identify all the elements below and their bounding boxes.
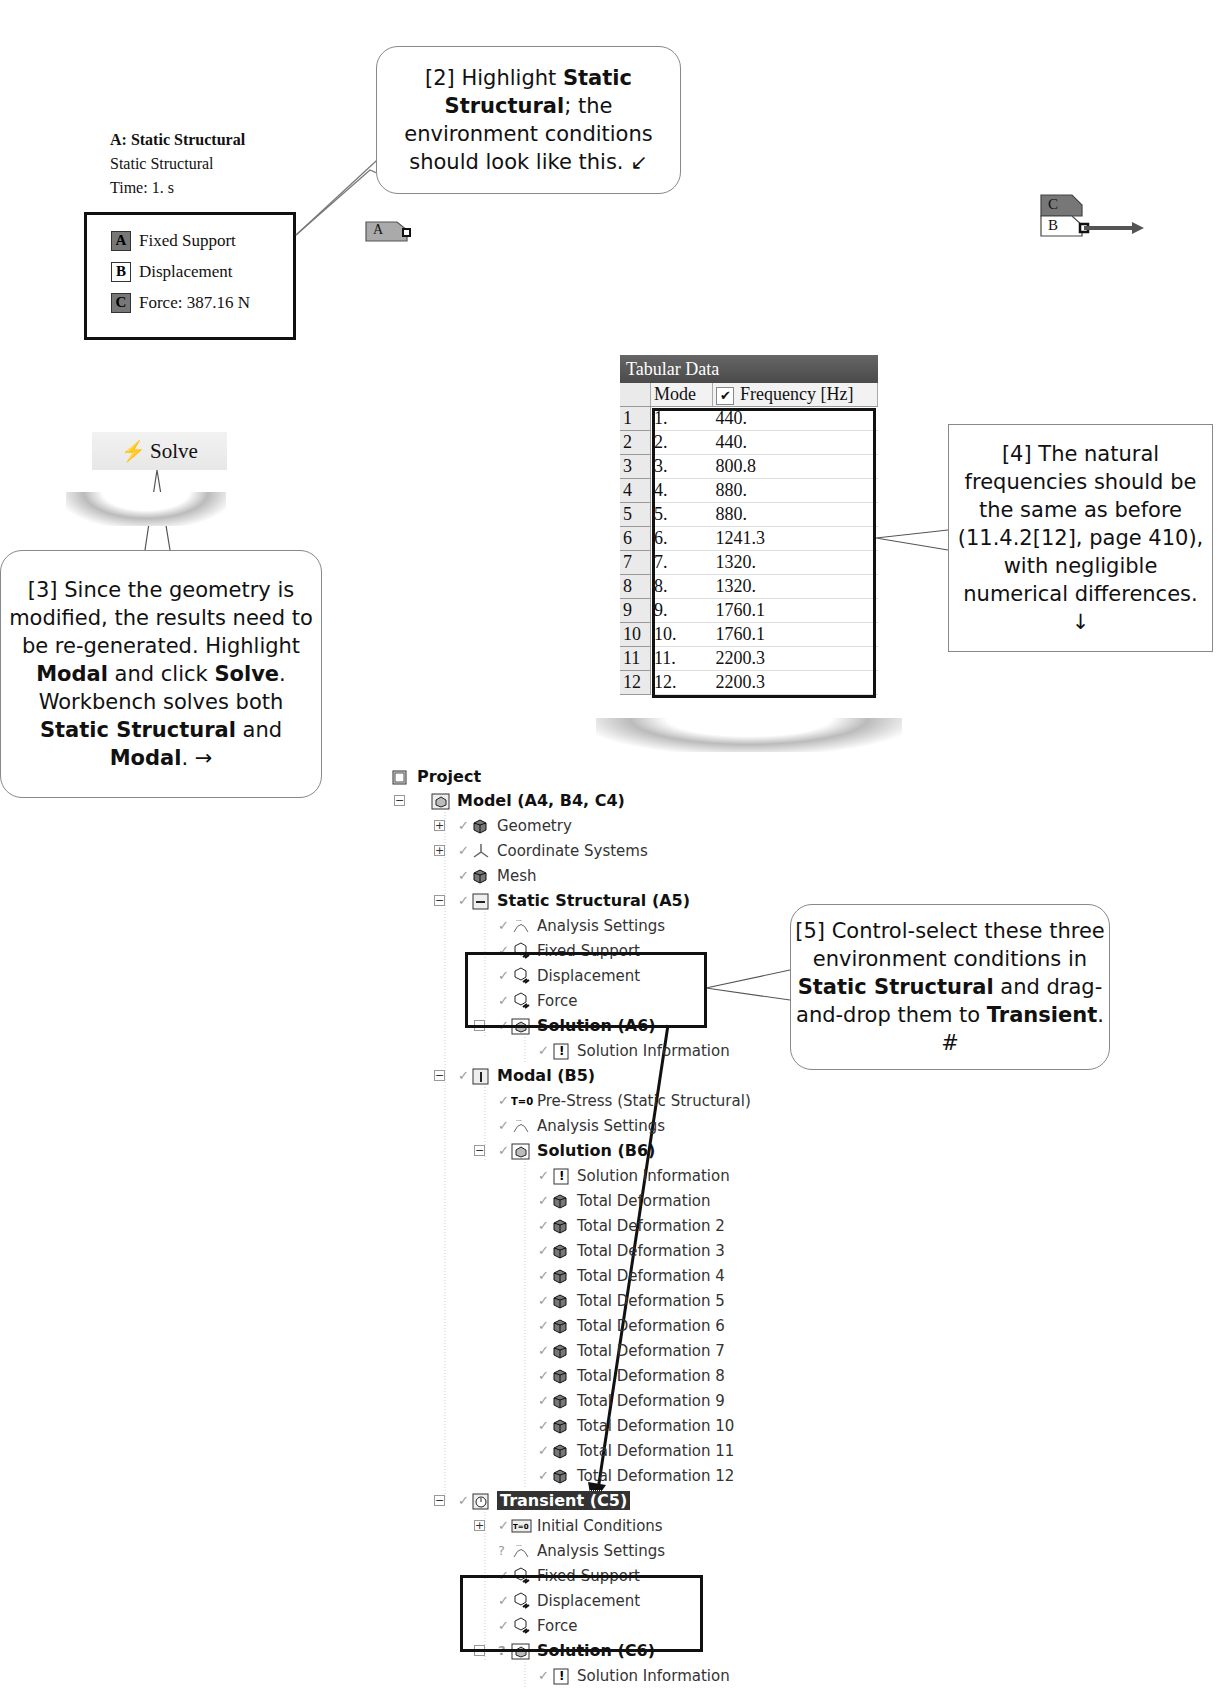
total-deformation-icon <box>551 1417 571 1435</box>
svg-text:...: ... <box>516 1117 522 1122</box>
column-header-mode[interactable]: Mode <box>651 383 713 407</box>
total-deformation-icon <box>551 1317 571 1335</box>
tree-item-label: Pre-Stress (Static Structural) <box>537 1092 751 1110</box>
tree-item-total-deformation-10[interactable]: ✓Total Deformation 10 <box>538 1414 734 1437</box>
status-check-icon: ✓ <box>458 893 470 908</box>
callout-step-2: [2] Highlight Static Structural; the env… <box>376 46 681 194</box>
row-header-corner <box>620 383 651 407</box>
total-deformation-icon <box>551 1217 571 1235</box>
callout-step-5: [5] Control-select these three environme… <box>790 904 1110 1070</box>
solve-button-label: Solve <box>150 439 198 464</box>
callout-bold: Modal <box>36 662 108 686</box>
tree-item-analysis-settings[interactable]: ?...Analysis Settings <box>498 1539 665 1562</box>
callout-text: and <box>236 718 282 742</box>
status-check-icon: ✓ <box>538 1418 550 1433</box>
tree-item-solution-information[interactable]: ✓!Solution Information <box>538 1164 730 1187</box>
tree-item-label: Solution Information <box>577 1167 730 1185</box>
tree-item-modal-b5[interactable]: ✓Modal (B5) <box>458 1064 595 1087</box>
total-deformation-icon <box>551 1192 571 1210</box>
collapse-icon[interactable]: − <box>434 1495 445 1506</box>
collapse-icon[interactable]: − <box>434 895 445 906</box>
tree-item-total-deformation-3[interactable]: ✓Total Deformation 3 <box>538 1239 725 1262</box>
tree-item-geometry[interactable]: ✓Geometry <box>458 814 572 837</box>
tree-item-initial-conditions[interactable]: ✓T=0Initial Conditions <box>498 1514 663 1537</box>
tree-item-static-structural-a5[interactable]: ✓Static Structural (A5) <box>458 889 690 912</box>
svg-text:!: ! <box>559 1669 564 1683</box>
analysis-settings-icon: ... <box>511 917 531 935</box>
status-check-icon: ✓ <box>538 1043 550 1058</box>
tree-item-label: Total Deformation 12 <box>577 1467 734 1485</box>
tree-item-solution-information[interactable]: ✓!Solution Information <box>538 1664 730 1687</box>
geometry-icon <box>471 817 491 835</box>
tree-item-transient-c5[interactable]: ✓Transient (C5) <box>458 1489 630 1512</box>
total-deformation-icon <box>551 1267 571 1285</box>
tree-item-label: Solution Information <box>577 1667 730 1685</box>
tree-item-solution-b6[interactable]: ✓Solution (B6) <box>498 1139 655 1162</box>
tree-item-project[interactable]: Project <box>378 765 481 788</box>
tree-item-solution-information[interactable]: ✓!Solution Information <box>538 1039 730 1062</box>
callout-bold: Modal <box>110 746 182 770</box>
initial-conditions-icon: T=0 <box>511 1517 531 1535</box>
tree-item-label: Analysis Settings <box>537 1117 665 1135</box>
tree-item-label: Total Deformation 9 <box>577 1392 725 1410</box>
tree-item-total-deformation-9[interactable]: ✓Total Deformation 9 <box>538 1389 725 1412</box>
status-check-icon: ✓ <box>538 1293 550 1308</box>
status-check-icon: ✓ <box>538 1368 550 1383</box>
callout-text: [3] Since the geometry is modified, the … <box>9 578 313 658</box>
status-question-icon: ? <box>498 1543 510 1558</box>
row-number: 4 <box>620 479 651 503</box>
solve-button[interactable]: ⚡ Solve <box>92 432 227 470</box>
tree-item-label: Total Deformation 3 <box>577 1242 725 1260</box>
tree-item-label: Solution (B6) <box>537 1141 655 1160</box>
tree-item-total-deformation-8[interactable]: ✓Total Deformation 8 <box>538 1364 725 1387</box>
row-number: 1 <box>620 407 651 431</box>
tree-item-mesh[interactable]: ✓Mesh <box>458 864 537 887</box>
svg-text:...: ... <box>516 917 522 922</box>
solution-information-icon: ! <box>551 1667 571 1685</box>
tree-item-label: Total Deformation <box>577 1192 710 1210</box>
tree-item-total-deformation-6[interactable]: ✓Total Deformation 6 <box>538 1314 725 1337</box>
status-check-icon: ✓ <box>538 1443 550 1458</box>
tree-item-label: Total Deformation 4 <box>577 1267 725 1285</box>
svg-text:!: ! <box>559 1169 564 1183</box>
tree-item-total-deformation-7[interactable]: ✓Total Deformation 7 <box>538 1339 725 1362</box>
column-header-label: Frequency [Hz] <box>740 384 853 404</box>
transient-icon <box>471 1492 491 1510</box>
callout-text: [2] Highlight <box>425 66 563 90</box>
collapse-icon[interactable]: − <box>434 1070 445 1081</box>
tree-item-total-deformation-12[interactable]: ✓Total Deformation 12 <box>538 1464 734 1487</box>
callout-bold: Solve <box>214 662 279 686</box>
model-tags-cb: C B <box>1040 194 1150 248</box>
tree-item-model-a4-b4-c4[interactable]: Model (A4, B4, C4) <box>418 789 625 812</box>
tree-item-coordinate-systems[interactable]: ✓Coordinate Systems <box>458 839 648 862</box>
tree-item-total-deformation-2[interactable]: ✓Total Deformation 2 <box>538 1214 725 1237</box>
checkbox-frequency[interactable]: ✔ <box>716 387 734 405</box>
tree-item-label: Total Deformation 8 <box>577 1367 725 1385</box>
expand-icon[interactable]: + <box>434 820 445 831</box>
total-deformation-icon <box>551 1467 571 1485</box>
model-tag-a: A <box>365 221 417 247</box>
column-header-frequency[interactable]: ✔Frequency [Hz] <box>713 383 878 407</box>
table-shadow <box>596 718 902 752</box>
static-structural-icon <box>471 892 491 910</box>
tree-item-analysis-settings[interactable]: ✓...Analysis Settings <box>498 914 665 937</box>
collapse-icon[interactable]: − <box>474 1145 485 1156</box>
tree-item-total-deformation-4[interactable]: ✓Total Deformation 4 <box>538 1264 725 1287</box>
tree-item-total-deformation-5[interactable]: ✓Total Deformation 5 <box>538 1289 725 1312</box>
row-number: 10 <box>620 623 651 647</box>
expand-icon[interactable]: + <box>434 845 445 856</box>
collapse-icon[interactable]: − <box>394 795 405 806</box>
tree-item-total-deformation-11[interactable]: ✓Total Deformation 11 <box>538 1439 734 1462</box>
tree-item-label: Modal (B5) <box>497 1066 595 1085</box>
tree-item-pre-stress-static-structural[interactable]: ✓T=0Pre-Stress (Static Structural) <box>498 1089 751 1112</box>
solution-icon <box>511 1142 531 1160</box>
tree-item-analysis-settings[interactable]: ✓...Analysis Settings <box>498 1114 665 1137</box>
status-check-icon: ✓ <box>538 1193 550 1208</box>
highlight-box-frequencies <box>652 408 876 698</box>
total-deformation-icon <box>551 1442 571 1460</box>
row-number: 5 <box>620 503 651 527</box>
row-number: 11 <box>620 647 651 671</box>
tree-item-total-deformation[interactable]: ✓Total Deformation <box>538 1189 710 1212</box>
total-deformation-icon <box>551 1342 571 1360</box>
expand-icon[interactable]: + <box>474 1520 485 1531</box>
